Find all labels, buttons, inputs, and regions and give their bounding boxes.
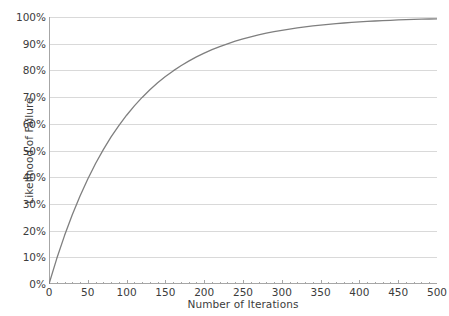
gridlines: [49, 18, 437, 258]
x-axis-title: Number of Iterations: [49, 298, 437, 310]
y-axis-tick-label: 80%: [2, 64, 46, 76]
x-axis-tick-label: 350: [311, 286, 331, 298]
y-axis-tick-label: 10%: [2, 251, 46, 263]
y-axis-tick-label: 100%: [2, 11, 46, 23]
y-axis-tick-label: 70%: [2, 91, 46, 103]
x-axis-tick-marks: [50, 280, 438, 284]
chart-container: Likelihood of Failure 0%10%20%30%40%50%6…: [0, 0, 449, 316]
x-axis-tick-label: 500: [427, 286, 447, 298]
y-axis-tick-label: 0%: [2, 278, 46, 290]
plot-svg: [49, 17, 437, 284]
y-axis-tick-label: 40%: [2, 171, 46, 183]
x-axis-tick-label: 150: [155, 286, 175, 298]
x-axis-tick-label: 100: [117, 286, 137, 298]
x-axis-tick-label: 300: [272, 286, 292, 298]
y-axis-tick-label: 90%: [2, 38, 46, 50]
y-axis-tick-label: 30%: [2, 198, 46, 210]
x-axis-tick-label: 200: [194, 286, 214, 298]
y-axis-tick-label: 60%: [2, 118, 46, 130]
y-axis-tick-label: 20%: [2, 225, 46, 237]
x-axis-tick-label: 0: [46, 286, 53, 298]
x-axis-tick-label: 400: [349, 286, 369, 298]
plot-area: [49, 17, 437, 284]
x-axis-tick-label: 250: [233, 286, 253, 298]
y-axis-tick-labels: 0%10%20%30%40%50%60%70%80%90%100%: [0, 17, 46, 284]
x-axis-tick-label: 50: [81, 286, 94, 298]
x-axis-tick-label: 450: [388, 286, 408, 298]
y-axis-tick-label: 50%: [2, 145, 46, 157]
